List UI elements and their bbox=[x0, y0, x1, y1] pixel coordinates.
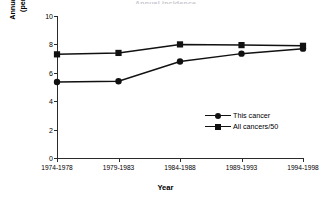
x-tick-label: 1979-1983 bbox=[103, 164, 135, 171]
plot-area: 0246810 1974-19781979-19831984-19881989-… bbox=[57, 16, 303, 158]
chart-legend: This cancerAll cancers/50 bbox=[205, 110, 278, 132]
legend-label: This cancer bbox=[233, 111, 270, 120]
data-point-marker bbox=[115, 50, 121, 56]
y-axis-title: Annual incidence (per 100,000) bbox=[8, 0, 30, 50]
series-layer bbox=[57, 16, 303, 158]
data-point-marker bbox=[54, 79, 60, 85]
chart-figure: Annual incidence Annual incidence (per 1… bbox=[0, 0, 331, 201]
legend-item[interactable]: All cancers/50 bbox=[205, 121, 278, 132]
legend-swatch bbox=[205, 110, 231, 121]
data-point-marker bbox=[115, 78, 121, 84]
data-point-marker bbox=[238, 42, 244, 48]
x-tick-label: 1994-1998 bbox=[287, 164, 319, 171]
legend-label: All cancers/50 bbox=[233, 122, 278, 131]
legend-item[interactable]: This cancer bbox=[205, 110, 278, 121]
cropped-title: Annual incidence bbox=[0, 0, 331, 4]
y-tick-label: 2 bbox=[49, 126, 53, 133]
x-tick-mark bbox=[119, 158, 120, 162]
data-point-marker bbox=[300, 43, 306, 49]
legend-circle-marker-icon bbox=[215, 113, 221, 119]
data-point-marker bbox=[177, 58, 183, 64]
data-point-marker bbox=[177, 41, 183, 47]
data-point-marker bbox=[54, 51, 60, 57]
y-tick-label: 10 bbox=[45, 13, 53, 20]
legend-swatch bbox=[205, 121, 231, 132]
x-tick-mark bbox=[57, 158, 58, 162]
legend-square-marker-icon bbox=[215, 124, 221, 130]
data-point-marker bbox=[238, 50, 244, 56]
y-tick-label: 0 bbox=[49, 155, 53, 162]
y-tick-label: 8 bbox=[49, 41, 53, 48]
x-tick-mark bbox=[303, 158, 304, 162]
y-tick-label: 6 bbox=[49, 69, 53, 76]
x-tick-label: 1989-1993 bbox=[226, 164, 258, 171]
x-tick-mark bbox=[180, 158, 181, 162]
x-tick-label: 1984-1988 bbox=[164, 164, 196, 171]
x-tick-mark bbox=[242, 158, 243, 162]
y-tick-label: 4 bbox=[49, 98, 53, 105]
x-tick-label: 1974-1978 bbox=[41, 164, 73, 171]
x-axis-title: Year bbox=[0, 183, 331, 192]
